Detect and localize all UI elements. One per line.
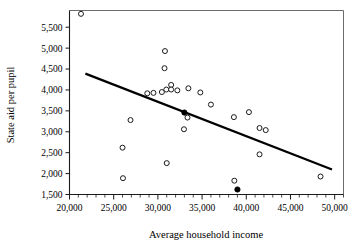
data-point bbox=[186, 86, 191, 91]
y-axis-tick-label: 4,500 bbox=[41, 64, 63, 74]
data-point bbox=[162, 49, 167, 54]
y-axis-tick-label: 3,000 bbox=[41, 127, 63, 137]
x-axis-tick-label: 25,000 bbox=[101, 203, 127, 213]
y-axis-tick-label: 2,500 bbox=[41, 148, 63, 158]
data-point bbox=[198, 90, 203, 95]
data-point bbox=[175, 88, 180, 93]
data-point bbox=[164, 161, 169, 166]
data-point bbox=[181, 127, 186, 132]
data-point bbox=[231, 115, 236, 120]
x-axis-tick-label: 50,000 bbox=[322, 203, 348, 213]
data-point-highlighted bbox=[235, 187, 240, 192]
data-point bbox=[263, 128, 268, 133]
data-point bbox=[232, 178, 237, 183]
data-point bbox=[246, 110, 251, 115]
data-point bbox=[208, 102, 213, 107]
x-axis-title: Average household income bbox=[149, 229, 263, 240]
data-point bbox=[120, 176, 125, 181]
y-axis-tick-label: 3,500 bbox=[41, 106, 63, 116]
data-point bbox=[120, 145, 125, 150]
data-point bbox=[257, 152, 262, 157]
y-axis-tick-label: 5,500 bbox=[41, 23, 63, 33]
x-axis-tick-label: 20,000 bbox=[56, 203, 82, 213]
data-point bbox=[164, 87, 169, 92]
data-point bbox=[318, 174, 323, 179]
data-point bbox=[185, 115, 190, 120]
y-axis-title: State aid per pupil bbox=[5, 67, 16, 144]
data-point bbox=[145, 91, 150, 96]
data-point bbox=[169, 87, 174, 92]
y-axis-tick-label: 5,000 bbox=[41, 44, 63, 54]
x-axis-tick-label: 35,000 bbox=[189, 203, 215, 213]
state-aid-vs-income-scatter-chart: 20,00025,00030,00035,00040,00045,00050,0… bbox=[0, 0, 353, 246]
scatter-plot-figure: 20,00025,00030,00035,00040,00045,00050,0… bbox=[0, 0, 353, 246]
data-point bbox=[257, 126, 262, 131]
data-point-highlighted bbox=[182, 110, 187, 115]
y-axis-tick-labels: 1,5002,0002,5003,0003,5004,0004,5005,000… bbox=[41, 23, 63, 200]
data-point bbox=[162, 66, 167, 71]
data-point bbox=[151, 90, 156, 95]
x-axis-tick-label: 45,000 bbox=[277, 203, 303, 213]
x-axis-tick-label: 40,000 bbox=[233, 203, 259, 213]
y-axis-tick-label: 1,500 bbox=[41, 190, 63, 200]
y-axis-tick-label: 2,000 bbox=[41, 169, 63, 179]
y-axis-tick-label: 4,000 bbox=[41, 85, 63, 95]
data-point bbox=[128, 118, 133, 123]
data-point bbox=[78, 11, 83, 16]
x-axis-tick-label: 30,000 bbox=[145, 203, 171, 213]
